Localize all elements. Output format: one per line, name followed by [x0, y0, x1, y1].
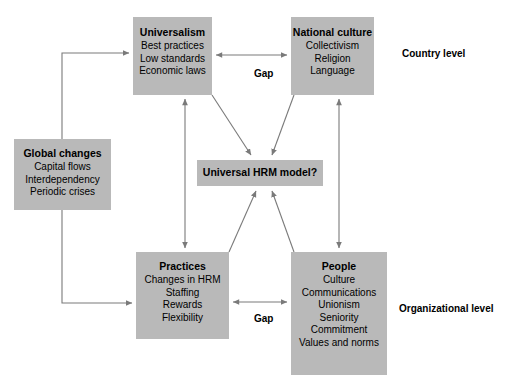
connector-people-to-universal-hrm	[272, 191, 294, 252]
connector-practices-to-universal-hrm	[229, 191, 256, 252]
node-national-culture-item: Language	[291, 65, 374, 78]
node-national-culture-title: National culture	[291, 26, 374, 39]
node-practices-item: Rewards	[136, 299, 229, 312]
node-universal-hrm-model-title: Universal HRM model?	[197, 166, 323, 179]
node-people-items: Culture Communications Unionism Seniorit…	[291, 274, 387, 350]
node-practices[interactable]: Practices Changes in HRM Staffing Reward…	[136, 252, 229, 339]
node-global-changes-item: Periodic crises	[14, 186, 111, 199]
node-national-culture-items: Collectivism Religion Language	[291, 40, 374, 78]
gap-label-bottom: Gap	[254, 313, 273, 324]
node-people-item: Communications	[291, 287, 387, 300]
node-people-item: Seniority	[291, 312, 387, 325]
node-practices-title: Practices	[136, 260, 229, 273]
node-national-culture-item: Collectivism	[291, 40, 374, 53]
node-people-item: Culture	[291, 274, 387, 287]
node-people[interactable]: People Culture Communications Unionism S…	[291, 252, 387, 375]
node-national-culture-item: Religion	[291, 53, 374, 66]
node-practices-items: Changes in HRM Staffing Rewards Flexibil…	[136, 274, 229, 324]
node-national-culture[interactable]: National culture Collectivism Religion L…	[291, 17, 374, 95]
node-global-changes-items: Capital flows Interdependency Periodic c…	[14, 161, 111, 199]
level-label-country: Country level	[402, 48, 465, 59]
connector-global-changes-to-universalism	[62, 53, 129, 139]
connector-universalism-to-universal-hrm	[212, 95, 251, 155]
node-practices-item: Staffing	[136, 287, 229, 300]
node-practices-item: Changes in HRM	[136, 274, 229, 287]
node-people-item: Values and norms	[291, 337, 387, 350]
node-universalism[interactable]: Universalism Best practices Low standard…	[133, 17, 212, 95]
diagram-canvas: Universalism Best practices Low standard…	[0, 0, 511, 390]
node-universalism-item: Economic laws	[133, 65, 212, 78]
node-universalism-title: Universalism	[133, 26, 212, 39]
node-universalism-items: Best practices Low standards Economic la…	[133, 40, 212, 78]
node-universalism-item: Best practices	[133, 40, 212, 53]
node-universalism-item: Low standards	[133, 53, 212, 66]
node-people-title: People	[291, 260, 387, 273]
connector-global-changes-to-practices	[62, 210, 132, 303]
node-people-item: Unionism	[291, 299, 387, 312]
connector-national-culture-to-universal-hrm	[272, 95, 294, 155]
node-global-changes-item: Interdependency	[14, 174, 111, 187]
node-universal-hrm-model[interactable]: Universal HRM model?	[197, 160, 323, 186]
node-global-changes-item: Capital flows	[14, 161, 111, 174]
level-label-organizational: Organizational level	[399, 303, 493, 314]
node-practices-item: Flexibility	[136, 312, 229, 325]
node-global-changes-title: Global changes	[14, 147, 111, 160]
gap-label-top: Gap	[254, 68, 273, 79]
node-global-changes[interactable]: Global changes Capital flows Interdepend…	[14, 139, 111, 210]
node-people-item: Commitment	[291, 324, 387, 337]
